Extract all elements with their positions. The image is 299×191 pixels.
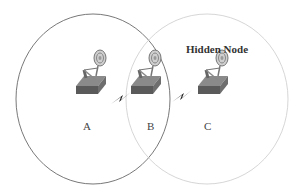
node-b-icon <box>131 50 161 94</box>
node-c-icon <box>198 50 228 94</box>
lightning-bolt-icon <box>172 90 192 102</box>
node-label-c: C <box>204 120 211 132</box>
diagram-canvas <box>0 0 299 191</box>
node-a-icon <box>76 50 106 94</box>
range-circle-a <box>16 14 170 184</box>
lightning-bolt-icon <box>111 92 131 104</box>
node-label-b: B <box>147 120 154 132</box>
range-circle-c <box>126 14 288 184</box>
hidden-node-label: Hidden Node <box>186 43 248 55</box>
node-label-a: A <box>83 120 91 132</box>
